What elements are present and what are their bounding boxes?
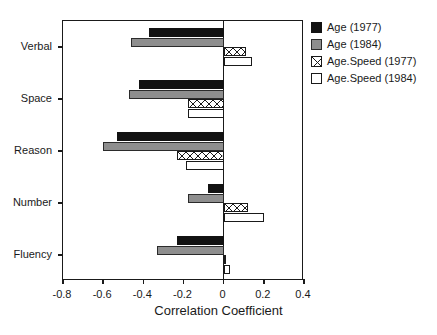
- bar-verbal-series-1: [131, 38, 223, 47]
- legend-item[interactable]: Age.Speed (1984): [311, 71, 435, 86]
- legend-item-label: Age.Speed (1984): [327, 73, 416, 84]
- black-square-icon: [311, 22, 322, 33]
- y-axis-tick-label: Space: [0, 93, 52, 104]
- crosshatch-pattern-icon: [178, 152, 222, 159]
- y-axis-tick-label: Fluency: [0, 249, 52, 260]
- bar-space-series-0: [139, 80, 223, 89]
- y-axis-tick-label: Number: [0, 197, 52, 208]
- x-axis-tick: [303, 279, 304, 284]
- y-axis-tick: [58, 254, 63, 255]
- y-axis-tick: [58, 46, 63, 47]
- x-axis-tick: [143, 279, 144, 284]
- bar-fluency-series-3: [224, 265, 230, 274]
- bar-space-series-2: [188, 99, 224, 108]
- x-axis-title: Correlation Coefficient: [0, 303, 437, 318]
- bar-reason-series-3: [186, 161, 224, 170]
- x-axis-tick: [263, 279, 264, 284]
- gray-square-icon: [311, 39, 322, 50]
- crosshatch-square-icon: [311, 56, 322, 67]
- bar-number-series-1: [188, 194, 224, 203]
- legend-item-label: Age.Speed (1977): [327, 56, 416, 67]
- x-axis-tick: [62, 279, 63, 284]
- bar-number-series-2: [224, 203, 248, 212]
- y-axis-tick: [58, 150, 63, 151]
- bar-fluency-series-2: [224, 255, 226, 264]
- bar-number-series-0: [208, 184, 224, 193]
- y-axis-tick: [58, 202, 63, 203]
- x-axis-tick: [102, 279, 103, 284]
- bar-reason-series-1: [103, 142, 224, 151]
- bar-reason-series-2: [177, 151, 223, 160]
- bar-number-series-3: [224, 213, 264, 222]
- legend-item[interactable]: Age (1977): [311, 20, 435, 35]
- bar-verbal-series-0: [149, 28, 223, 37]
- bar-reason-series-0: [117, 132, 223, 141]
- legend-item-label: Age (1977): [327, 22, 381, 33]
- bar-verbal-series-3: [224, 57, 252, 66]
- crosshatch-pattern-icon: [225, 48, 245, 55]
- y-axis-tick-label: Reason: [0, 145, 52, 156]
- crosshatch-pattern-icon: [189, 100, 223, 107]
- chart-legend: Age (1977)Age (1984)Age.Speed (1977)Age.…: [311, 20, 435, 88]
- bar-space-series-1: [129, 90, 223, 99]
- plot-area: [62, 20, 303, 280]
- bar-space-series-3: [188, 109, 224, 118]
- legend-item-label: Age (1984): [327, 39, 381, 50]
- x-axis-tick: [183, 279, 184, 284]
- crosshatch-pattern-icon: [225, 204, 247, 211]
- x-axis-tick: [223, 279, 224, 284]
- bar-verbal-series-2: [224, 47, 246, 56]
- x-axis-tick-label: 0.4: [278, 289, 328, 300]
- bar-fluency-series-0: [177, 236, 223, 245]
- white-square-icon: [311, 73, 322, 84]
- chart-figure: Correlation Coefficient Age (1977)Age (1…: [0, 0, 437, 335]
- y-axis-tick: [58, 98, 63, 99]
- legend-item[interactable]: Age (1984): [311, 37, 435, 52]
- y-axis-tick-label: Verbal: [0, 41, 52, 52]
- legend-item[interactable]: Age.Speed (1977): [311, 54, 435, 69]
- bar-fluency-series-1: [157, 246, 223, 255]
